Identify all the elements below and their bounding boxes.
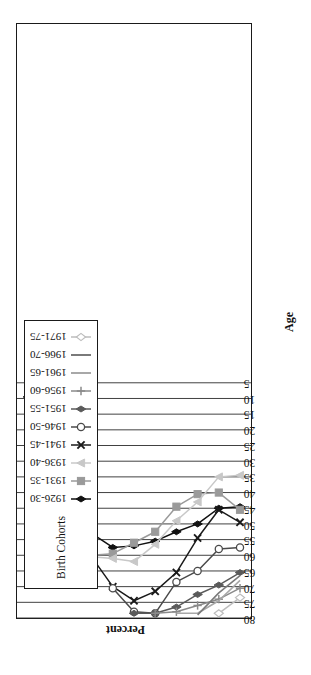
legend-entry-1971-75[interactable]: 1971-75 (30, 328, 92, 346)
legend-entry-label: 1971-75 (30, 331, 67, 343)
x-axis-title: Age (282, 267, 297, 377)
legend-entry-label: 1936-40 (30, 457, 67, 469)
rotated-figure-container: 8075706560555045403530252015105 20-2425-… (0, 0, 311, 675)
y-axis-tick: 65 (244, 566, 284, 578)
data-point-marker (152, 588, 159, 595)
legend-entry-label: 1926-30 (30, 493, 67, 505)
data-point-marker (77, 477, 84, 484)
data-point-marker (194, 534, 201, 541)
legend-entry-label: 1931-35 (30, 475, 67, 487)
data-point-marker (152, 528, 159, 535)
y-axis-tick: 80 (244, 613, 284, 625)
y-axis-tick: 25 (244, 440, 284, 452)
legend-entry-marker (70, 346, 92, 364)
y-axis-tick: 55 (244, 535, 284, 547)
data-point-marker (76, 387, 84, 395)
legend-entry-marker (70, 418, 92, 436)
data-point-marker (76, 496, 86, 502)
legend-entry-marker (70, 454, 92, 472)
y-axis-tick: 50 (244, 519, 284, 531)
legend-entry-marker (70, 400, 92, 418)
y-axis-tick: 35 (244, 472, 284, 484)
y-axis-tick: 70 (244, 582, 284, 594)
legend-entry-1956-60[interactable]: 1956-60 (30, 382, 92, 400)
legend-entry-label: 1956-60 (30, 385, 67, 397)
y-axis-tick: 5 (244, 377, 284, 389)
y-axis-title: Percent (66, 622, 186, 637)
legend-entry-label: 1946-50 (30, 421, 67, 433)
data-point-marker (173, 569, 180, 576)
data-point-marker (215, 489, 222, 496)
legend: Birth Cohorts 1926-301931-351936-401941-… (24, 320, 98, 589)
chart-figure: 8075706560555045403530252015105 20-2425-… (0, 0, 311, 675)
data-point-marker (76, 333, 85, 340)
data-point-marker (130, 597, 137, 604)
y-axis-tick: 40 (244, 487, 284, 499)
y-axis-tick: 60 (244, 550, 284, 562)
y-axis-tick: 15 (244, 409, 284, 421)
data-point-marker (109, 585, 116, 592)
data-point-marker (77, 423, 84, 430)
y-axis-tick: 10 (244, 393, 284, 405)
legend-entry-marker (70, 490, 92, 508)
data-point-marker (130, 558, 138, 566)
data-point-marker (236, 471, 244, 479)
legend-entry-marker (70, 472, 92, 490)
legend-entries: 1926-301931-351936-401941-451946-501951-… (30, 328, 92, 508)
series-line (219, 598, 240, 614)
legend-entry-label: 1966-70 (30, 349, 67, 361)
legend-entry-label: 1941-45 (30, 439, 67, 451)
y-axis-tick: 20 (244, 424, 284, 436)
data-point-marker (76, 406, 86, 412)
legend-entry-1951-55[interactable]: 1951-55 (30, 400, 92, 418)
data-point-marker (194, 567, 201, 574)
data-point-marker (173, 503, 180, 510)
data-point-marker (130, 539, 137, 546)
legend-title: Birth Cohorts (55, 508, 67, 581)
data-point-marker (215, 545, 222, 552)
legend-entry-1946-50[interactable]: 1946-50 (30, 418, 92, 436)
data-point-marker (172, 608, 180, 616)
y-axis-tick: 30 (244, 456, 284, 468)
legend-entry-1961-65[interactable]: 1961-65 (30, 364, 92, 382)
data-point-marker (236, 506, 243, 513)
data-point-marker (193, 601, 201, 609)
data-point-marker (236, 544, 243, 551)
data-point-marker (194, 491, 201, 498)
data-point-marker (173, 578, 180, 585)
legend-entry-marker (70, 436, 92, 454)
legend-entry-1941-45[interactable]: 1941-45 (30, 436, 92, 454)
legend-entry-label: 1961-65 (30, 367, 67, 379)
legend-entry-label: 1951-55 (30, 403, 67, 415)
legend-entry-1926-30[interactable]: 1926-30 (30, 490, 92, 508)
legend-entry-1966-70[interactable]: 1966-70 (30, 346, 92, 364)
legend-entry-1931-35[interactable]: 1931-35 (30, 472, 92, 490)
data-point-marker (76, 459, 84, 467)
legend-entry-marker (70, 328, 92, 346)
y-axis-tick: 45 (244, 503, 284, 515)
data-point-marker (236, 519, 243, 526)
legend-entry-marker (70, 382, 92, 400)
legend-entry-marker (70, 364, 92, 382)
y-axis-tick: 75 (244, 598, 284, 610)
legend-entry-1936-40[interactable]: 1936-40 (30, 454, 92, 472)
